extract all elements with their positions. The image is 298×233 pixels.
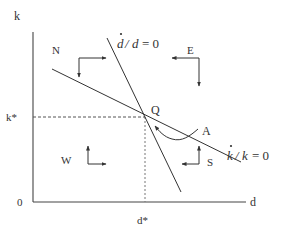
equilibrium-label: Q [151, 103, 160, 117]
k-star-label: k* [6, 111, 17, 123]
region-w-label: W [61, 154, 72, 166]
region-e-label: E [187, 44, 194, 56]
d-nullcline-label: d / d = 0 [117, 33, 159, 51]
region-n-arrows [79, 58, 106, 77]
region-n-label: N [52, 44, 60, 56]
region-s-label: S [207, 156, 213, 168]
region-s-arrows [182, 146, 199, 164]
region-w-arrows [88, 146, 106, 164]
k-nullcline-label: k / k = 0 [227, 145, 269, 163]
svg-text:= 0: = 0 [142, 36, 159, 51]
region-e-arrows [172, 58, 199, 86]
svg-text:d: d [117, 36, 124, 51]
svg-text:= 0: = 0 [252, 148, 269, 163]
phase-diagram: k d 0 k* d* d / d = 0 k / k = 0 Q A N E … [0, 0, 298, 233]
x-axis-label: d [250, 195, 256, 209]
k-nullcline [52, 69, 241, 162]
origin-label: 0 [17, 196, 23, 208]
svg-text:d: d [132, 36, 139, 51]
dot-accent [230, 145, 232, 147]
svg-text:k: k [242, 148, 248, 163]
svg-text:/: / [124, 36, 130, 51]
dot-accent [120, 33, 122, 35]
svg-text:k: k [227, 148, 233, 163]
d-nullcline [107, 38, 181, 192]
y-axis-label: k [14, 9, 20, 23]
trajectory-label: A [202, 124, 211, 138]
d-star-label: d* [137, 214, 148, 226]
